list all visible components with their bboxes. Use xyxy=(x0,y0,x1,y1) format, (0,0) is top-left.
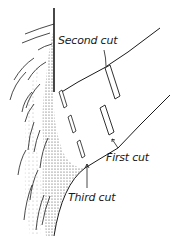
second-cut-leader xyxy=(104,50,106,66)
third-cut-arrow xyxy=(85,164,89,188)
pruning-diagram: Second cut First cut Third cut xyxy=(0,0,172,236)
trunk-shading xyxy=(25,28,85,236)
first-cut-mark xyxy=(100,105,114,135)
second-cut-label: Second cut xyxy=(58,34,117,47)
first-cut-label: First cut xyxy=(106,151,149,164)
first-cut-arrow xyxy=(112,139,118,148)
third-cut-marks xyxy=(59,90,85,158)
second-cut-mark xyxy=(105,65,120,99)
third-cut-label: Third cut xyxy=(68,191,115,204)
